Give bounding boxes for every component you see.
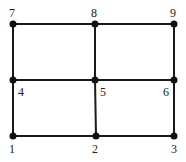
node-4 (10, 77, 17, 84)
node-3 (171, 133, 178, 140)
node-5 (92, 77, 99, 84)
node-7 (10, 21, 17, 28)
node-label-2: 2 (92, 142, 98, 156)
node-label-7: 7 (9, 6, 15, 20)
node-label-9: 9 (170, 6, 176, 20)
node-label-8: 8 (91, 6, 97, 20)
grid-graph-diagram: 123456789 (0, 0, 186, 162)
node-9 (171, 21, 178, 28)
node-label-3: 3 (171, 142, 177, 156)
node-label-6: 6 (163, 85, 169, 99)
node-label-5: 5 (100, 85, 106, 99)
node-label-1: 1 (9, 142, 15, 156)
node-2 (93, 133, 100, 140)
node-label-4: 4 (18, 85, 24, 99)
node-6 (171, 77, 178, 84)
node-8 (92, 21, 99, 28)
node-1 (10, 133, 17, 140)
edge-5-2 (95, 80, 96, 136)
